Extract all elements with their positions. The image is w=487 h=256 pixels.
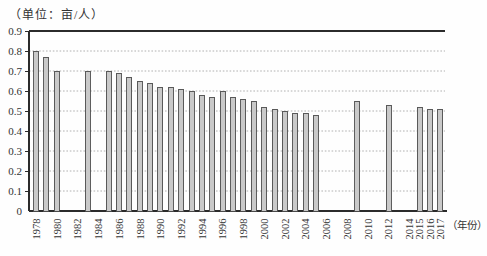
x-tick-label: 2004 [300,218,311,240]
bar-2012 [386,105,391,211]
y-tick-label: 0.1 [8,185,22,197]
x-tick-label: 1978 [31,219,42,240]
x-tick-label: 2015 [414,219,425,240]
bar-1993 [189,91,194,211]
x-tick-label: 2000 [259,219,270,240]
x-tick-label: 2014 [404,218,415,240]
bar-1995 [210,97,215,211]
x-tick-label: 2002 [280,219,291,240]
y-tick-label: 0.7 [8,65,22,77]
bar-1987 [127,77,132,211]
x-tick-label: 1996 [217,219,228,240]
bar-chart: （单位：亩/人） 0.90.80.70.60.50.40.30.20.10197… [0,0,487,256]
bar-2001 [272,109,277,211]
x-tick-labels: 1978198019821984198619881990199219941996… [31,218,446,240]
year-axis-label: （年份） [447,217,487,232]
x-tick-label: 2006 [321,219,332,240]
bar-2005 [313,115,318,211]
x-tick-label: 2017 [435,219,446,240]
bar-2016 [428,109,433,211]
bar-2009 [355,101,360,211]
x-tick-label: 1998 [238,219,249,240]
x-tick-label: 1992 [176,219,187,240]
bar-1985 [106,71,111,211]
bar-1986 [116,73,121,211]
y-tick-label: 0.8 [8,45,22,57]
bar-2015 [417,107,422,211]
y-tick-label: 0.3 [8,145,22,157]
x-tick-label: 2008 [342,219,353,240]
gridlines [29,51,445,191]
y-tick-label: 0.6 [8,85,22,97]
bar-1990 [158,87,163,211]
x-tick-label: 1982 [72,219,83,240]
bar-chart-plot: 0.90.80.70.60.50.40.30.20.10197819801982… [0,0,487,256]
bar-2004 [303,113,308,211]
y-tick-label: 0.9 [8,25,22,37]
bar-1999 [251,101,256,211]
bar-2017 [438,109,443,211]
y-tick-labels: 0.90.80.70.60.50.40.30.20.10 [8,25,29,217]
bar-2000 [262,107,267,211]
bar-1989 [148,83,153,211]
bar-2002 [282,111,287,211]
x-tick-label: 1988 [135,219,146,240]
y-tick-label: 0.5 [8,105,22,117]
bar-1998 [241,99,246,211]
y-tick-label: 0 [17,205,23,217]
bar-1988 [137,81,142,211]
bar-1991 [168,87,173,211]
y-tick-label: 0.2 [8,165,22,177]
x-tick-label: 1986 [114,219,125,240]
bar-1992 [179,89,184,211]
bar-1978 [34,51,39,211]
bar-1997 [231,97,236,211]
x-tick-label: 1994 [197,218,208,240]
bar-1983 [85,71,90,211]
x-tick-label: 1980 [52,219,63,240]
y-tick-label: 0.4 [8,125,22,137]
bar-1980 [54,71,59,211]
x-tick-label: 1984 [93,218,104,240]
axes [29,31,447,211]
bar-1996 [220,91,225,211]
bar-1994 [199,95,204,211]
x-tick-label: 2010 [363,219,374,240]
x-tick-label: 1990 [155,219,166,240]
x-tick-label: 2012 [383,219,394,240]
bar-1979 [44,57,49,211]
bar-2003 [293,113,298,211]
x-tick-label: 2016 [425,219,436,240]
